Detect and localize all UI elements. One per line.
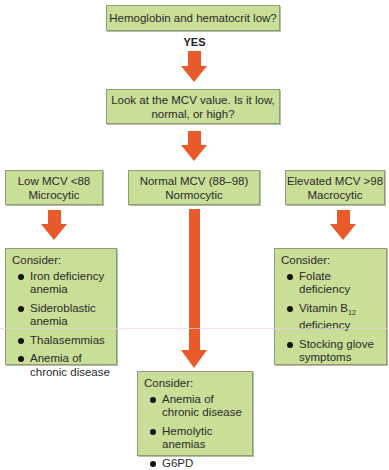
down-arrow-icon <box>181 131 208 161</box>
list-item: Anemia of chronic disease <box>144 393 246 420</box>
consider-normocytic-box: Consider: Anemia of chronic disease Hemo… <box>137 371 253 456</box>
down-arrow-icon <box>41 210 68 240</box>
consider-title: Consider: <box>281 254 380 268</box>
figure-caption-cutoff <box>48 455 348 461</box>
list-item: Hemolytic anemias <box>144 425 246 452</box>
consider-microcytic-box: Consider: Iron deficiency anemia Siderob… <box>5 248 117 365</box>
microcytic-causes-list: Iron deficiency anemia Sideroblastic ane… <box>12 270 110 380</box>
list-item: Anemia of chronic disease <box>12 352 110 379</box>
list-item: Sideroblastic anemia <box>12 302 110 329</box>
elevated-mcv-line2: Macrocytic <box>308 188 363 202</box>
low-mcv-box: Low MCV <88 Microcytic <box>5 170 103 205</box>
vitamin-b-text: Vitamin B <box>299 302 348 314</box>
hemoglobin-question-text: Hemoglobin and hematocrit low? <box>109 11 276 25</box>
elevated-mcv-line1: Elevated MCV >98 <box>287 174 383 188</box>
mcv-question-line1: Look at the MCV value. Is it low, <box>111 93 275 107</box>
long-down-arrow-icon <box>181 209 208 368</box>
list-item: Stocking glove symptoms <box>281 338 380 365</box>
down-arrow-icon <box>181 51 208 82</box>
normal-mcv-box: Normal MCV (88–98) Normocytic <box>128 170 260 205</box>
vitamin-subscript: 12 <box>348 309 356 316</box>
down-arrow-icon <box>330 210 357 240</box>
vitamin-suffix: deficiency <box>299 319 350 331</box>
low-mcv-line1: Low MCV <88 <box>18 174 91 188</box>
low-mcv-line2: Microcytic <box>28 188 79 202</box>
list-item: Iron deficiency anemia <box>12 270 110 297</box>
consider-macrocytic-box: Consider: Folate deficiency Vitamin B12d… <box>274 248 387 365</box>
hemoglobin-question-box: Hemoglobin and hematocrit low? <box>106 5 280 31</box>
macrocytic-causes-list: Folate deficiency Vitamin B12deficiency … <box>281 270 380 365</box>
consider-title: Consider: <box>12 254 110 268</box>
mcv-question-box: Look at the MCV value. Is it low, normal… <box>106 89 280 124</box>
scan-line-divider <box>0 328 389 329</box>
list-item: Thalasemmias <box>12 334 110 348</box>
list-item: Folate deficiency <box>281 270 380 297</box>
yes-label: YES <box>0 36 389 48</box>
normal-mcv-line1: Normal MCV (88–98) <box>140 174 249 188</box>
elevated-mcv-box: Elevated MCV >98 Macrocytic <box>285 170 385 205</box>
consider-title: Consider: <box>144 377 246 391</box>
normal-mcv-line2: Normocytic <box>165 188 223 202</box>
mcv-question-line2: normal, or high? <box>151 107 234 121</box>
